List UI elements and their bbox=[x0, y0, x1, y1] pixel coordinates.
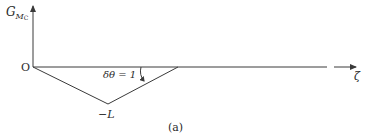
origin-label: O bbox=[21, 61, 30, 74]
y-axis-label: GMC bbox=[6, 5, 29, 21]
min-value-label: −L bbox=[98, 108, 115, 121]
influence-line-diagram: GMC O −L δθ = 1 ζ (a) bbox=[0, 0, 369, 136]
angle-label: δθ = 1 bbox=[103, 69, 136, 80]
x-axis-label: ζ bbox=[354, 70, 361, 83]
rotation-arc-icon bbox=[140, 67, 144, 81]
figure-caption: (a) bbox=[168, 121, 183, 134]
